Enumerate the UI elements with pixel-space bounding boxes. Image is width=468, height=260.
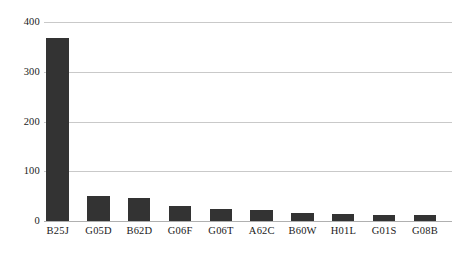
y-tick-label-400: 400 [4, 17, 40, 28]
bar-g06f [169, 206, 191, 221]
gridline-baseline-0 [44, 221, 452, 222]
x-tick-label-6: B60W [282, 225, 324, 237]
bar-h01l [332, 214, 354, 221]
y-tick-label-100: 100 [4, 166, 40, 177]
y-tick-label-300: 300 [4, 67, 40, 78]
bar-a62c [250, 210, 272, 221]
bar-g08b [414, 215, 436, 221]
y-axis: 400 300 200 100 0 [0, 0, 40, 260]
x-tick-label-7: H01L [322, 225, 364, 237]
bars-group [44, 22, 452, 221]
x-tick-label-4: G06T [200, 225, 242, 237]
bar-b62d [128, 198, 150, 221]
x-tick-label-5: A62C [241, 225, 283, 237]
x-tick-label-2: B62D [118, 225, 160, 237]
bar-g05d [87, 196, 109, 221]
x-tick-label-9: G08B [404, 225, 446, 237]
x-tick-label-3: G06F [159, 225, 201, 237]
x-tick-label-1: G05D [78, 225, 120, 237]
x-axis: B25J G05D B62D G06F G06T A62C B60W H01L … [44, 225, 452, 245]
x-tick-label-0: B25J [37, 225, 79, 237]
bar-chart: 400 300 200 100 0 B25J G05D B62D G06F G0… [0, 0, 468, 260]
y-tick-label-200: 200 [4, 117, 40, 128]
bar-g01s [373, 215, 395, 221]
bar-b25j [46, 38, 68, 221]
bar-g06t [210, 209, 232, 221]
x-tick-label-8: G01S [363, 225, 405, 237]
y-tick-label-0: 0 [4, 216, 40, 227]
bar-b60w [291, 213, 313, 221]
